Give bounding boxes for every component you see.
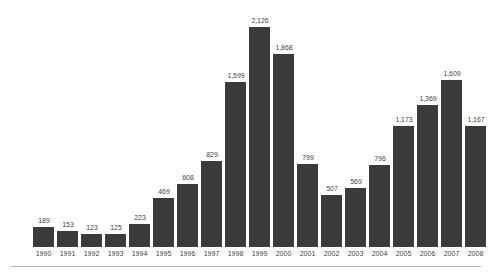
footer-divider-rule: [11, 266, 481, 267]
bar-value-label: 507: [326, 184, 337, 193]
bar[interactable]: [417, 105, 438, 247]
bar[interactable]: [177, 184, 198, 247]
x-axis-tick-label: 2007: [442, 248, 460, 260]
bar[interactable]: [225, 82, 246, 247]
bar-group[interactable]: 125: [105, 0, 126, 247]
bar-value-label: 1,167: [467, 115, 484, 124]
x-axis-tick-label: 1997: [202, 248, 220, 260]
bar[interactable]: [153, 198, 174, 247]
bar-group[interactable]: 608: [177, 0, 198, 247]
bar-value-label: 123: [86, 223, 97, 232]
bar-group[interactable]: 153: [57, 0, 78, 247]
bar-value-label: 1,369: [419, 94, 436, 103]
bar-chart-figure: 1891531231252234696088291,5992,1261,8687…: [0, 0, 492, 277]
bar-group[interactable]: 2,126: [249, 0, 270, 247]
bar-value-label: 569: [350, 177, 361, 186]
bar[interactable]: [393, 126, 414, 247]
bar[interactable]: [297, 164, 318, 247]
x-axis-tick-label: 1991: [58, 248, 76, 260]
bar-group[interactable]: 799: [297, 0, 318, 247]
x-axis-tick-label: 1995: [154, 248, 172, 260]
bar-group[interactable]: 223: [129, 0, 150, 247]
bar-value-label: 799: [302, 153, 313, 162]
bar-value-label: 223: [134, 213, 145, 222]
x-axis-tick-label: 2006: [418, 248, 436, 260]
bar-group[interactable]: 123: [81, 0, 102, 247]
bar-value-label: 469: [158, 187, 169, 196]
x-axis-tick-label: 1990: [34, 248, 52, 260]
bar-group[interactable]: 1,167: [465, 0, 486, 247]
bar[interactable]: [201, 161, 222, 247]
bar[interactable]: [345, 188, 366, 247]
x-axis-tick-label: 2000: [274, 248, 292, 260]
bar[interactable]: [273, 54, 294, 247]
bar-value-label: 153: [62, 220, 73, 229]
bar[interactable]: [465, 126, 486, 247]
bar-group[interactable]: 796: [369, 0, 390, 247]
bar[interactable]: [321, 195, 342, 247]
bar[interactable]: [81, 234, 102, 247]
x-axis-tick-label: 2004: [370, 248, 388, 260]
bar-group[interactable]: 1,369: [417, 0, 438, 247]
bar-group[interactable]: 829: [201, 0, 222, 247]
x-axis-tick-label: 1996: [178, 248, 196, 260]
bar-value-label: 189: [38, 216, 49, 225]
bar-value-label: 2,126: [251, 16, 268, 25]
bar-value-label: 608: [182, 173, 193, 182]
bar[interactable]: [369, 165, 390, 247]
bar[interactable]: [129, 224, 150, 247]
bar-group[interactable]: 569: [345, 0, 366, 247]
bar-group[interactable]: 1,173: [393, 0, 414, 247]
bar[interactable]: [249, 27, 270, 247]
x-axis-tick-label: 2005: [394, 248, 412, 260]
bar-value-label: 829: [206, 150, 217, 159]
bar-group[interactable]: 1,599: [225, 0, 246, 247]
x-axis-tick-label: 1998: [226, 248, 244, 260]
bar-value-label: 796: [374, 154, 385, 163]
chart-plot-area: 1891531231252234696088291,5992,1261,8687…: [0, 0, 492, 247]
bar-group[interactable]: 1,609: [441, 0, 462, 247]
bar[interactable]: [57, 231, 78, 247]
bar[interactable]: [33, 227, 54, 247]
bar-value-label: 125: [110, 223, 121, 232]
x-axis-tick-label: 1994: [130, 248, 148, 260]
bar-group[interactable]: 1,868: [273, 0, 294, 247]
bar-value-label: 1,609: [443, 69, 460, 78]
x-axis-tick-label: 2008: [466, 248, 484, 260]
bar-value-label: 1,868: [275, 43, 292, 52]
bar[interactable]: [105, 234, 126, 247]
x-axis-tick-label: 2002: [322, 248, 340, 260]
x-axis-tick-label: 2003: [346, 248, 364, 260]
x-axis-tick-label: 1992: [82, 248, 100, 260]
bar[interactable]: [441, 80, 462, 247]
x-axis-tick-label: 1999: [250, 248, 268, 260]
bar-value-label: 1,173: [395, 115, 412, 124]
bar-group[interactable]: 469: [153, 0, 174, 247]
bar-group[interactable]: 507: [321, 0, 342, 247]
x-axis-tick-label: 1993: [106, 248, 124, 260]
bar-group[interactable]: 189: [33, 0, 54, 247]
x-axis-tick-labels: 1990199119921993199419951996199719981999…: [0, 248, 492, 262]
x-axis-tick-label: 2001: [298, 248, 316, 260]
bar-value-label: 1,599: [227, 71, 244, 80]
